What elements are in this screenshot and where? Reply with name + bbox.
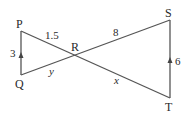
parallel-arrow-icon-pq (19, 52, 24, 58)
length-label-pr: 1.5 (45, 29, 59, 41)
vertex-label-s: S (165, 6, 172, 20)
vertex-label-p: P (16, 17, 23, 31)
length-label-st: 6 (175, 55, 181, 67)
length-label-pq: 3 (10, 47, 16, 59)
vertex-label-t: T (165, 100, 173, 114)
parallel-arrow-icon-st (168, 57, 173, 63)
similar-triangles-diagram: P Q R S T 3 1.5 y 8 x 6 (0, 0, 187, 115)
length-label-qr: y (48, 65, 54, 77)
length-label-rt: x (113, 74, 119, 86)
vertex-label-q: Q (15, 77, 24, 91)
vertex-label-r: R (71, 40, 79, 54)
segment-pt (21, 31, 170, 98)
segment-qs (21, 20, 170, 75)
length-label-rs: 8 (113, 26, 119, 38)
